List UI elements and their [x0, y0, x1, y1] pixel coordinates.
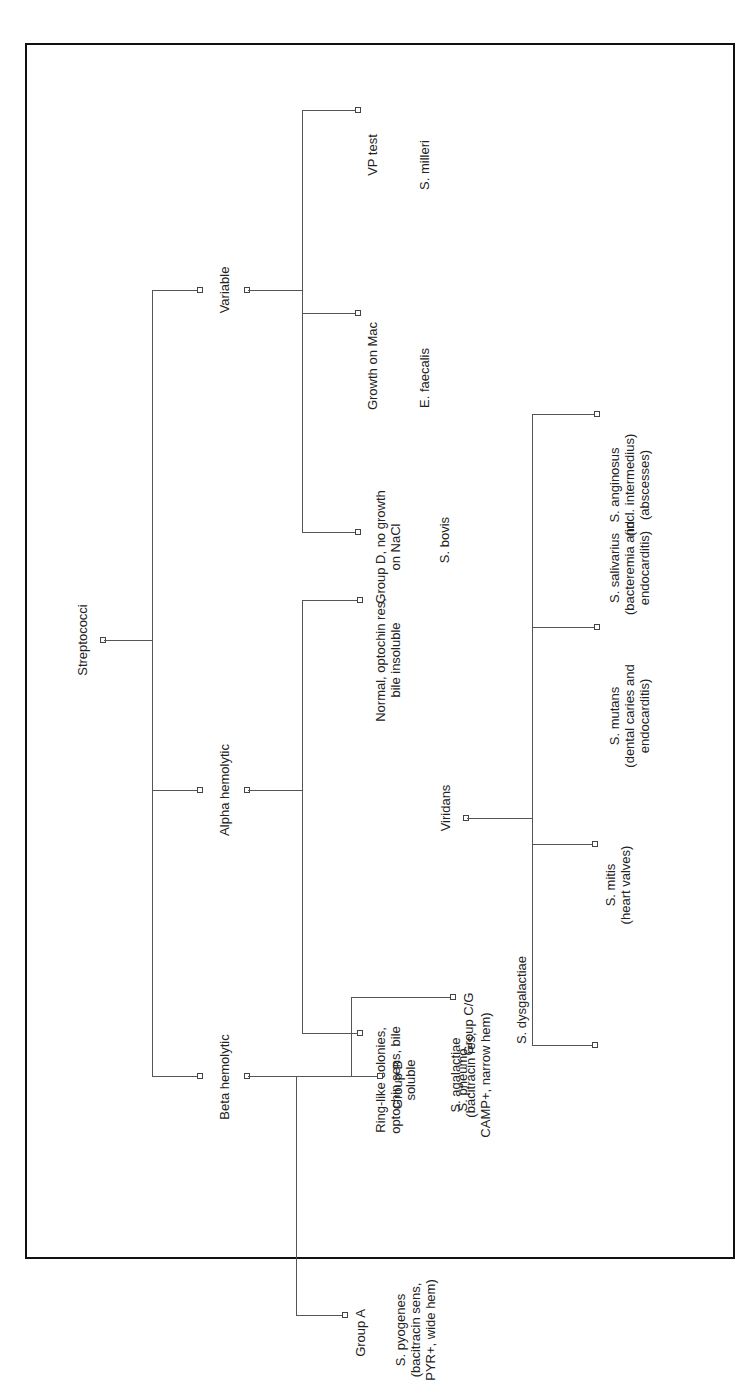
group-b-node — [377, 1073, 383, 1079]
group-cg-node — [450, 994, 456, 1000]
variable-in-node — [197, 287, 203, 293]
connector — [532, 844, 595, 845]
s-pyogenes-label: S. pyogenes (bacitracin sens, PYR+, wide… — [393, 1279, 438, 1381]
s-salivarius-node — [594, 624, 600, 630]
connector — [248, 790, 302, 791]
vp-test-node — [355, 107, 361, 113]
beta-label: Beta hemolytic — [217, 1034, 232, 1119]
beta-branch-line-a — [296, 1076, 297, 1315]
connector — [152, 290, 200, 291]
alpha-in-node — [197, 787, 203, 793]
connector — [532, 414, 597, 415]
group-cg-label: Group C/G — [461, 993, 476, 1056]
variable-branch-line — [302, 110, 303, 532]
connector — [302, 532, 358, 533]
vp-test-label: VP test — [365, 134, 380, 176]
normal-label: Normal, optochin res, bile insoluble — [373, 598, 403, 722]
connector — [302, 313, 358, 314]
group-a-node — [342, 1312, 348, 1318]
normal-node — [357, 597, 363, 603]
growth-mac-node — [355, 310, 361, 316]
connector — [302, 110, 358, 111]
root-label: Streptococci — [75, 604, 90, 676]
connector — [467, 818, 532, 819]
s-salivarius-label: S. salivarius (bacteremia and endocardit… — [607, 521, 652, 615]
beta-in-node — [197, 1073, 203, 1079]
connector — [302, 600, 360, 601]
connector — [351, 997, 453, 998]
e-faecalis-label: E. faecalis — [417, 348, 432, 408]
variable-label: Variable — [217, 267, 232, 314]
connector — [152, 1076, 200, 1077]
trunk-line — [152, 290, 153, 1076]
growth-mac-label: Growth on Mac — [365, 322, 380, 410]
viridans-label: Viridans — [438, 785, 453, 832]
group-d-node — [355, 529, 361, 535]
s-mutans-label: S. mutans (dental caries and endocarditi… — [607, 664, 652, 767]
s-mitis-label: S. mitis (heart valves) — [603, 846, 633, 925]
connector — [248, 290, 302, 291]
s-mitis-node — [592, 1042, 598, 1048]
viridans-branch-line — [532, 414, 533, 1045]
connector — [532, 627, 597, 628]
s-milleri-label: S. milleri — [417, 140, 432, 190]
connector — [152, 790, 200, 791]
group-b-label: Group B — [390, 1061, 405, 1109]
s-mutans-node — [592, 841, 598, 847]
alpha-branch-line — [302, 600, 303, 1033]
ring-like-node — [357, 1030, 363, 1036]
beta-branch-line-cg — [351, 997, 352, 1076]
group-a-label: Group A — [353, 1309, 368, 1357]
alpha-label: Alpha hemolytic — [217, 744, 232, 836]
connector — [532, 1045, 595, 1046]
connector — [104, 640, 152, 641]
group-d-label: Group D, no growth on NaCl — [373, 490, 403, 603]
connector — [296, 1315, 345, 1316]
connector — [248, 1076, 380, 1077]
s-dysgalactiae-label: S. dysgalactiae — [514, 956, 529, 1044]
s-bovis-label: S. bovis — [437, 517, 452, 563]
s-anginosus-node — [594, 411, 600, 417]
